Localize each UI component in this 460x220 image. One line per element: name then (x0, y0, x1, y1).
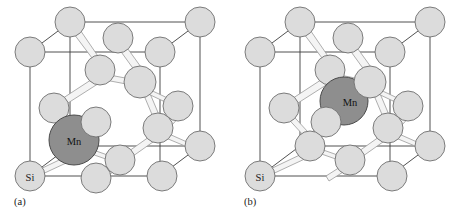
si-atom (81, 163, 111, 193)
si-atom (354, 66, 386, 98)
si-atom (185, 7, 215, 37)
si-atom (103, 23, 133, 53)
si-atom (333, 23, 363, 53)
crystal-structure-figure: Mn Si (a) (0, 0, 460, 220)
si-atom (373, 113, 403, 143)
si-atom (295, 131, 325, 161)
si-atom (143, 113, 173, 143)
si-atom (415, 131, 445, 161)
si-atom (81, 107, 111, 137)
panel-a: Mn Si (a) (0, 0, 230, 220)
si-atom (145, 37, 175, 67)
si-atom (124, 66, 156, 98)
panel-b-canvas: Mn Si (b) (230, 0, 460, 220)
si-atom (335, 145, 365, 175)
si-atom (375, 37, 405, 67)
silicon-atoms-back-a (15, 7, 215, 161)
si-atom (285, 7, 315, 37)
si-atom (377, 161, 407, 191)
si-atom (85, 55, 115, 85)
panel-caption-b: (b) (244, 196, 257, 208)
si-atom (185, 131, 215, 161)
si-atom (55, 7, 85, 37)
panel-caption-a: (a) (14, 196, 26, 208)
si-atom (147, 161, 177, 191)
si-atom (15, 37, 45, 67)
si-atom (245, 37, 275, 67)
si-atom (269, 93, 299, 123)
panel-a-canvas: Mn Si (a) (0, 0, 230, 220)
si-atom-corner-labeled (15, 161, 45, 191)
si-atom-corner-labeled (245, 161, 275, 191)
panel-b: Mn Si (b) (230, 0, 460, 220)
si-atom (415, 7, 445, 37)
